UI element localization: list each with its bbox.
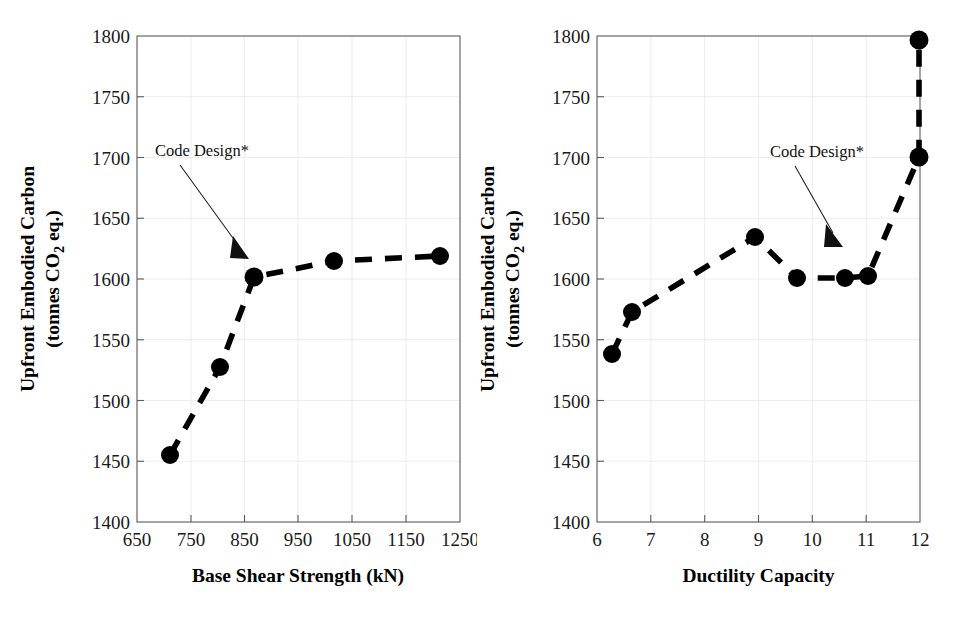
right-data-point <box>623 303 641 321</box>
right-data-point <box>746 228 764 246</box>
right-ytick-label-1750: 1750 <box>552 87 590 108</box>
left-series-line <box>170 256 440 455</box>
left-ytick-label-1750: 1750 <box>92 87 130 108</box>
right-data-point <box>859 267 877 285</box>
left-data-point <box>161 446 179 464</box>
right-xtick-label-11: 11 <box>857 529 875 550</box>
right-yaxis-title-line1: Upfront Embodied Carbon <box>477 166 498 392</box>
left-xtick-label-950: 950 <box>284 529 313 550</box>
left-ytick-label-1550: 1550 <box>92 330 130 351</box>
left-annotation-arrowhead <box>230 236 249 259</box>
right-ytick-label-1700: 1700 <box>552 148 590 169</box>
chart-panel-right: 1800 1750 1700 1650 1600 1550 1500 1450 … <box>477 0 954 618</box>
right-ytick-label-1450: 1450 <box>552 451 590 472</box>
right-x-ticks <box>651 515 866 522</box>
right-xtick-label-9: 9 <box>754 529 764 550</box>
right-annotation-arrowhead <box>824 224 843 247</box>
right-ytick-label-1650: 1650 <box>552 208 590 229</box>
right-xtick-label-8: 8 <box>700 529 710 550</box>
right-annotation-label: Code Design* <box>770 142 864 161</box>
figure-root: 1800 1750 1700 1650 1600 1550 1500 1450 … <box>0 0 954 618</box>
left-data-point <box>431 247 449 265</box>
right-yaxis-title-line2-suffix: eq.) <box>502 210 524 246</box>
right-xtick-label-6: 6 <box>592 529 602 550</box>
left-x-ticks <box>191 515 406 522</box>
left-xtick-label-1050: 1050 <box>333 529 371 550</box>
left-xtick-label-750: 750 <box>177 529 206 550</box>
right-data-point <box>910 31 929 50</box>
left-xtick-label-1150: 1150 <box>387 529 424 550</box>
chart-panel-left: 1800 1750 1700 1650 1600 1550 1500 1450 … <box>0 0 477 618</box>
left-ytick-label-1600: 1600 <box>92 269 130 290</box>
right-annotation-leader <box>795 166 833 233</box>
left-ytick-label-1700: 1700 <box>92 148 130 169</box>
right-xtick-label-12: 12 <box>911 529 930 550</box>
left-data-point <box>245 268 264 287</box>
right-xaxis-title: Ductility Capacity <box>682 565 834 586</box>
right-series-line <box>612 40 919 354</box>
right-data-point <box>910 148 929 167</box>
right-data-point <box>603 345 621 363</box>
left-yaxis-title-sub: 2 <box>52 246 67 253</box>
right-yaxis-title-line2: (tonnes CO2 eq.) <box>502 210 527 348</box>
left-xaxis-title: Base Shear Strength (kN) <box>192 565 404 587</box>
left-xtick-label-650: 650 <box>123 529 152 550</box>
left-gridlines <box>137 36 460 522</box>
right-series-markers <box>603 31 929 364</box>
left-yaxis-title-line2-suffix: eq.) <box>42 210 64 246</box>
left-yaxis-title-line2-prefix: (tonnes CO <box>42 253 64 348</box>
left-xtick-label-850: 850 <box>230 529 259 550</box>
left-y-ticks <box>137 97 144 462</box>
right-yaxis-title-sub: 2 <box>512 246 527 253</box>
right-ytick-label-1500: 1500 <box>552 391 590 412</box>
right-data-point <box>836 269 854 287</box>
right-ytick-label-1600: 1600 <box>552 269 590 290</box>
right-yaxis-title-line2-prefix: (tonnes CO <box>502 253 524 348</box>
left-ytick-label-1500: 1500 <box>92 391 130 412</box>
left-annotation-leader <box>180 165 238 245</box>
right-xtick-label-7: 7 <box>646 529 656 550</box>
left-ytick-label-1650: 1650 <box>92 208 130 229</box>
right-yaxis-title: Upfront Embodied Carbon (tonnes CO2 eq.) <box>477 166 527 392</box>
right-chart-svg: 1800 1750 1700 1650 1600 1550 1500 1450 … <box>477 0 954 618</box>
left-data-point <box>325 252 343 270</box>
right-ytick-label-1800: 1800 <box>552 26 590 47</box>
right-data-point <box>788 269 806 287</box>
left-yaxis-title-line2: (tonnes CO2 eq.) <box>42 210 67 348</box>
left-chart-svg: 1800 1750 1700 1650 1600 1550 1500 1450 … <box>0 0 477 618</box>
right-y-ticks <box>597 97 604 462</box>
left-data-point <box>211 358 229 376</box>
left-xtick-label-1250: 1250 <box>441 529 477 550</box>
left-annotation-label: Code Design* <box>155 141 249 160</box>
left-ytick-label-1450: 1450 <box>92 451 130 472</box>
left-ytick-label-1800: 1800 <box>92 26 130 47</box>
right-xtick-label-10: 10 <box>803 529 822 550</box>
right-ytick-label-1400: 1400 <box>552 512 590 533</box>
left-yaxis-title-line1: Upfront Embodied Carbon <box>17 166 38 392</box>
left-yaxis-title: Upfront Embodied Carbon (tonnes CO2 eq.) <box>17 166 67 392</box>
right-ytick-label-1550: 1550 <box>552 330 590 351</box>
